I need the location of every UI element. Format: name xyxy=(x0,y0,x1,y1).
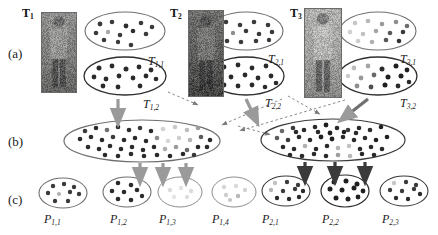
feature-point xyxy=(196,126,201,131)
photo-T1 xyxy=(41,12,77,93)
figure-canvas: (a)(b)(c) T1T2T3 T1,1T1,2T2,1T2,2T3,1T3,… xyxy=(0,0,438,235)
pool-label-P21: P2,1 xyxy=(262,212,279,227)
feature-point xyxy=(77,192,81,196)
row-label-row-a: (a) xyxy=(8,46,22,62)
feature-point xyxy=(330,137,335,142)
feature-point xyxy=(236,194,240,198)
feature-point xyxy=(346,197,351,202)
feature-point xyxy=(357,126,362,131)
feature-point xyxy=(152,145,157,150)
feature-point xyxy=(124,67,129,72)
feature-point xyxy=(104,77,109,82)
feature-point xyxy=(122,190,127,195)
feature-point xyxy=(404,180,408,184)
feature-point xyxy=(394,64,399,69)
feature-point xyxy=(263,85,268,90)
feature-point xyxy=(129,198,134,203)
feature-point xyxy=(117,74,122,79)
feature-point xyxy=(62,182,66,186)
feature-point xyxy=(154,77,159,82)
feature-point xyxy=(388,188,392,192)
feature-point xyxy=(53,199,57,203)
feature-point xyxy=(133,136,138,141)
feature-point xyxy=(374,29,379,34)
feature-point xyxy=(168,154,173,159)
pool-label-P14: P1,4 xyxy=(212,212,229,227)
feature-point xyxy=(353,21,358,26)
feature-point xyxy=(356,39,361,44)
feature-point xyxy=(141,148,146,153)
feature-point xyxy=(51,184,55,188)
feature-point xyxy=(140,194,144,198)
feature-point xyxy=(297,195,301,199)
feature-point xyxy=(224,193,228,197)
cluster-label-T21: T2,1 xyxy=(268,52,284,67)
feature-point xyxy=(275,196,279,200)
feature-point xyxy=(269,74,274,79)
feature-point xyxy=(281,189,285,193)
cluster-label-T11: T1,1 xyxy=(148,54,164,69)
feature-point xyxy=(368,128,373,133)
feature-point xyxy=(273,181,277,185)
tracklet-heading-T2: T2 xyxy=(170,6,182,21)
feature-point xyxy=(397,39,402,44)
feature-point xyxy=(370,40,375,45)
feature-point xyxy=(250,66,255,71)
feature-point xyxy=(192,153,197,158)
feature-point xyxy=(243,188,247,192)
feature-point xyxy=(383,83,388,88)
feature-point xyxy=(406,197,410,201)
feature-point xyxy=(166,139,171,144)
feature-point xyxy=(250,83,255,88)
feature-point xyxy=(110,64,115,69)
feature-point xyxy=(116,125,121,130)
association-arrow-dash-T22-to-B2 xyxy=(288,96,318,113)
feature-point xyxy=(155,136,160,141)
feature-point xyxy=(129,183,134,188)
feature-point xyxy=(173,125,178,130)
feature-point xyxy=(137,65,142,70)
feature-point xyxy=(138,126,143,131)
feature-point xyxy=(122,138,127,143)
feature-point xyxy=(314,147,319,152)
feature-point xyxy=(256,76,261,81)
feature-point xyxy=(344,179,349,184)
feature-point xyxy=(359,76,364,81)
feature-point xyxy=(66,199,70,203)
feature-point xyxy=(366,64,371,69)
feature-point xyxy=(372,153,377,158)
feature-point xyxy=(380,147,385,152)
feature-point xyxy=(185,128,190,133)
feature-point xyxy=(358,147,363,152)
feature-point xyxy=(174,145,179,150)
feature-point xyxy=(361,189,366,194)
feature-point xyxy=(267,38,271,42)
feature-point xyxy=(324,123,329,128)
feature-point xyxy=(269,188,273,192)
pool-label-P12: P1,2 xyxy=(110,212,127,227)
feature-point xyxy=(236,63,241,68)
feature-point xyxy=(270,30,275,35)
feature-point xyxy=(285,180,289,184)
feature-point xyxy=(94,126,99,131)
cluster-ellipse-P_1_4 xyxy=(212,177,256,207)
feature-point xyxy=(372,73,377,78)
feature-point xyxy=(394,20,399,25)
feature-point xyxy=(319,135,324,140)
feature-point xyxy=(412,187,416,191)
feature-point xyxy=(103,153,108,158)
feature-point xyxy=(418,192,422,196)
feature-point xyxy=(297,135,302,140)
feature-point xyxy=(386,75,391,80)
feature-point xyxy=(301,189,305,193)
feature-point xyxy=(78,137,83,142)
feature-point xyxy=(341,135,346,140)
feature-point xyxy=(98,22,103,27)
feature-point xyxy=(97,66,102,71)
feature-point xyxy=(150,25,155,30)
feature-point xyxy=(108,144,113,149)
feature-point xyxy=(252,20,257,25)
association-arrow-dash-T32-to-B1 xyxy=(242,100,345,130)
feature-point xyxy=(316,130,321,135)
feature-point xyxy=(388,31,393,36)
